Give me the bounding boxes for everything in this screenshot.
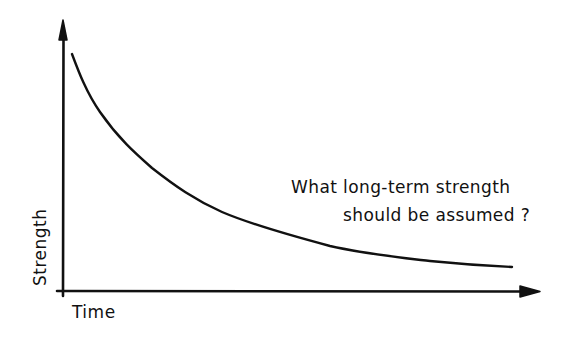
x-axis-label: Time	[71, 302, 116, 322]
y-axis-label: Strength	[30, 208, 50, 286]
x-axis	[57, 291, 522, 292]
annotation-line-1: What long-term strength	[291, 177, 510, 197]
chart-canvas: Strength Time What long-term strength sh…	[0, 0, 586, 345]
annotation-line-2: should be assumed ?	[343, 205, 530, 225]
y-axis	[63, 40, 64, 296]
y-axis-arrow-icon	[59, 20, 67, 40]
strength-decay-curve	[72, 54, 512, 267]
x-axis-arrow-icon	[520, 286, 540, 297]
